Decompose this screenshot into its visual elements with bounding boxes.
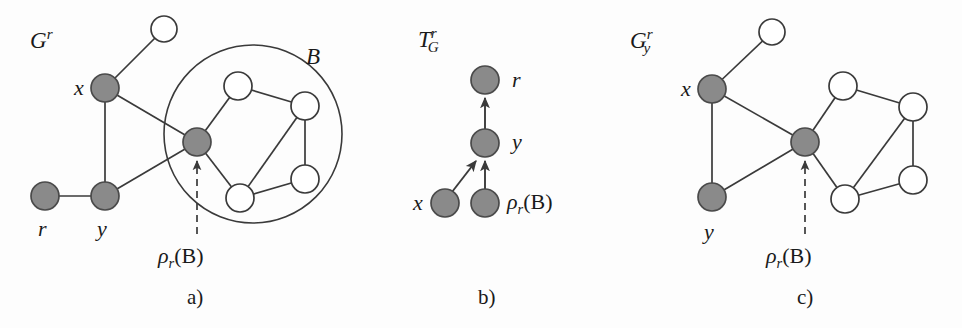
node-x xyxy=(698,75,726,103)
panel-b-caption: b) xyxy=(478,287,496,308)
figure-canvas xyxy=(0,0,962,328)
panel-a-label-r-text: r xyxy=(38,216,47,241)
rho-argument: (B) xyxy=(782,243,811,268)
panel-b-label-x: x xyxy=(413,192,423,214)
edge xyxy=(712,142,805,197)
panel-a-graph-superscript: r xyxy=(47,25,53,42)
panel-b-label-r: r xyxy=(512,69,521,91)
panel-a-label-y-text: y xyxy=(97,216,107,241)
node-pivot xyxy=(471,189,499,217)
block-node-top xyxy=(829,72,857,100)
panel-a-graph-base: G xyxy=(30,28,47,53)
node-y xyxy=(91,182,119,210)
panel-a-caption: a) xyxy=(187,287,203,308)
panel-c-edges xyxy=(712,32,913,199)
panel-a-graph-label: Gr xyxy=(30,26,53,52)
panel-c-label-x-text: x xyxy=(681,76,691,101)
rho-glyph: ρ xyxy=(158,243,169,268)
panel-a-caption-text: a) xyxy=(187,285,203,309)
panel-c-label-y-text: y xyxy=(704,219,714,244)
panel-b-graph xyxy=(431,66,499,217)
top-white-node xyxy=(759,19,785,45)
block-node-right-bottom xyxy=(899,166,927,194)
node-r xyxy=(471,66,499,94)
edge xyxy=(105,142,197,196)
block-node-right-top xyxy=(899,93,927,121)
rho-argument: (B) xyxy=(523,189,552,214)
top-white-node xyxy=(151,16,177,42)
panel-b-caption-text: b) xyxy=(478,285,496,309)
panel-c-caption-text: c) xyxy=(797,285,813,309)
block-node-bottom xyxy=(226,184,254,212)
panel-b-pivot-label: ρr(B) xyxy=(507,191,553,217)
node-x xyxy=(91,74,119,102)
edge xyxy=(105,88,197,142)
rho-argument: (B) xyxy=(174,243,203,268)
panel-a-set-label-B: B xyxy=(306,45,320,68)
panel-b-graph-label: TrG xyxy=(418,25,439,54)
block-node-right-top xyxy=(291,92,319,120)
panel-c-caption: c) xyxy=(797,287,813,308)
rho-glyph: ρ xyxy=(507,189,518,214)
node-y xyxy=(471,129,499,157)
block-node-bottom xyxy=(831,185,859,213)
panel-a-pivot-label: ρr(B) xyxy=(158,245,204,271)
node-pivot xyxy=(183,128,211,156)
panel-a-set-label-B-text: B xyxy=(306,44,320,69)
panel-c-graph-label: Gry xyxy=(630,26,650,55)
panel-c-graph xyxy=(698,19,927,234)
edge xyxy=(712,89,805,142)
block-node-top xyxy=(224,72,252,100)
tree-arrow-x-to-y xyxy=(452,161,476,192)
panel-a-label-x-text: x xyxy=(74,75,84,100)
panel-b-label-r-text: r xyxy=(512,67,521,92)
panel-c-pivot-label: ρr(B) xyxy=(766,245,812,271)
rho-glyph: ρ xyxy=(766,243,777,268)
figure-root: Gr x r y B ρr(B) a) TrG r y x ρr(B) b) G… xyxy=(0,0,962,328)
node-y xyxy=(698,183,726,211)
panel-a-label-x: x xyxy=(74,77,84,99)
panel-a-label-y: y xyxy=(97,218,107,240)
panel-b-graph-subscript: G xyxy=(428,38,439,55)
panel-a-label-r: r xyxy=(38,218,47,240)
panel-a-graph xyxy=(31,16,342,234)
node-x xyxy=(431,189,459,217)
panel-a-edges xyxy=(45,29,305,198)
panel-b-label-y: y xyxy=(512,131,522,153)
node-pivot xyxy=(791,128,819,156)
panel-c-graph-subscript: y xyxy=(644,39,651,56)
node-r xyxy=(31,182,59,210)
panel-c-label-x: x xyxy=(681,78,691,100)
panel-c-label-y: y xyxy=(704,221,714,243)
block-node-right-bottom xyxy=(291,165,319,193)
panel-b-label-x-text: x xyxy=(413,190,423,215)
panel-b-label-y-text: y xyxy=(512,129,522,154)
